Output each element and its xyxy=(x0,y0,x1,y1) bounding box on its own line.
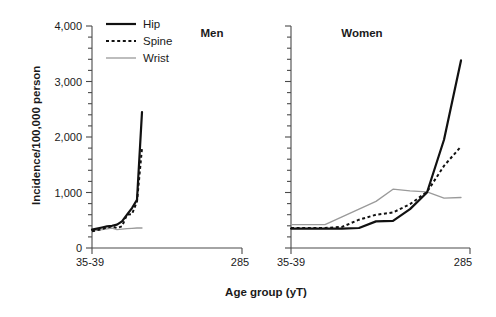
legend-item-spine[interactable]: Spine xyxy=(106,35,172,47)
chart-legend: Hip Spine Wrist xyxy=(106,18,172,64)
men-x-tick-label-end: 285 xyxy=(231,256,249,268)
legend-label-wrist: Wrist xyxy=(143,52,170,64)
y-tick-label-3000: 3,000 xyxy=(54,76,82,88)
panel-women: 35-39 285 Women xyxy=(277,26,472,268)
men-x-tick-label-start: 35-39 xyxy=(76,256,104,268)
panel-title-women: Women xyxy=(341,27,382,39)
y-tick-label-2000: 2,000 xyxy=(54,131,82,143)
legend-label-hip: Hip xyxy=(143,18,160,30)
y-tick-label-1000: 1,000 xyxy=(54,187,82,199)
series-line-spine-men xyxy=(92,148,142,231)
legend-label-spine: Spine xyxy=(143,35,172,47)
series-line-spine-women xyxy=(291,146,461,228)
y-axis-title: Incidence/100,000 person xyxy=(30,66,42,205)
legend-item-hip[interactable]: Hip xyxy=(106,18,160,30)
series-line-wrist-women xyxy=(291,189,461,225)
y-tick-label-4000: 4,000 xyxy=(54,20,82,32)
y-tick-label-0: 0 xyxy=(76,242,82,254)
series-line-hip-women xyxy=(291,60,461,228)
x-axis-title: Age group (yT) xyxy=(225,286,307,298)
panel-title-men: Men xyxy=(201,27,224,39)
figure-container: Incidence/100,000 person xyxy=(0,0,496,317)
women-x-tick-label-end: 285 xyxy=(454,256,472,268)
women-x-tick-label-start: 35-39 xyxy=(277,256,305,268)
chart-svg: Incidence/100,000 person xyxy=(0,0,496,317)
legend-item-wrist[interactable]: Wrist xyxy=(106,52,170,64)
series-line-hip-men xyxy=(92,112,142,230)
